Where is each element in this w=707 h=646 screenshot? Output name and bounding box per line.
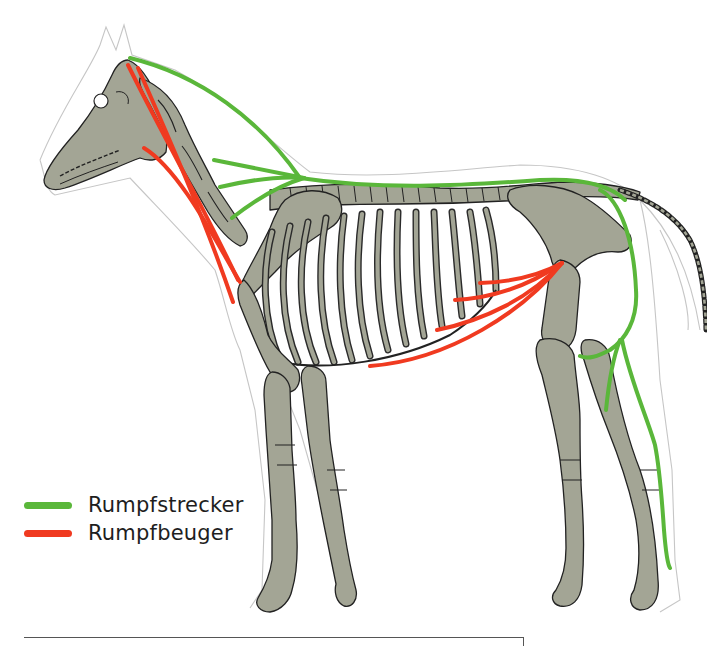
legend-item-extensor: Rumpfstrecker [24, 491, 244, 519]
horse-skeleton-diagram [0, 0, 707, 646]
hindlimbs [536, 260, 662, 610]
forelimbs [238, 280, 356, 612]
legend-item-flexor: Rumpfbeuger [24, 519, 244, 547]
legend: Rumpfstrecker Rumpfbeuger [24, 491, 244, 547]
footer-rule-tick [523, 637, 524, 646]
legend-swatch-red [24, 530, 72, 537]
legend-label-extensor: Rumpfstrecker [88, 493, 244, 517]
skull [44, 60, 167, 190]
legend-swatch-green [24, 502, 72, 509]
footer-rule [24, 637, 524, 638]
scapula [241, 191, 342, 300]
legend-label-flexor: Rumpfbeuger [88, 521, 233, 545]
